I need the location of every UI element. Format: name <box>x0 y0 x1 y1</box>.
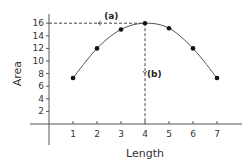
data-point <box>71 76 76 81</box>
y-tick-label: 4 <box>38 94 44 104</box>
x-tick-label: 7 <box>214 129 220 139</box>
x-tick-label: 4 <box>142 129 148 139</box>
line-chart: 1234567246810121416LengthArea(a)(b) <box>0 0 251 164</box>
annotation-a: (a) <box>104 11 118 21</box>
guide-lines <box>49 21 147 124</box>
data-point <box>119 27 124 32</box>
x-axis-title: Length <box>126 147 164 160</box>
x-tick-label: 3 <box>118 129 124 139</box>
y-tick-label: 6 <box>38 81 44 91</box>
x-tick-label: 6 <box>190 129 196 139</box>
axes <box>30 14 242 145</box>
y-tick-label: 12 <box>33 43 44 53</box>
annotation-b: (b) <box>147 69 162 79</box>
y-axis-title: Area <box>11 61 24 86</box>
data-point <box>95 46 100 51</box>
data-point <box>191 46 196 51</box>
y-tick-label: 16 <box>33 18 45 28</box>
x-tick-label: 2 <box>94 129 100 139</box>
data-point <box>167 26 172 31</box>
y-tick-label: 10 <box>33 56 45 66</box>
x-tick-label: 1 <box>70 129 76 139</box>
labels: 1234567246810121416LengthArea(a)(b) <box>11 11 220 160</box>
y-tick-label: 8 <box>38 69 44 79</box>
data-point <box>143 21 148 26</box>
data-point <box>215 76 220 81</box>
y-tick-label: 2 <box>38 106 44 116</box>
x-tick-label: 5 <box>166 129 172 139</box>
y-tick-label: 14 <box>33 31 45 41</box>
